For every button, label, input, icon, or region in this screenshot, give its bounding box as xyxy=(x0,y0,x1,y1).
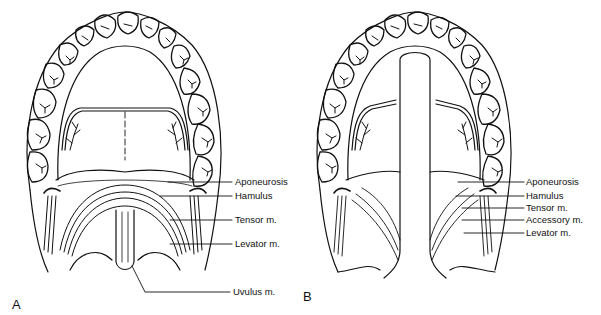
panel-letter-a: A xyxy=(12,298,21,311)
label-a-tensor: Tensor m. xyxy=(235,215,277,225)
palate-illustration xyxy=(0,0,601,315)
label-a-levator: Levator m. xyxy=(235,239,280,249)
panel-a-drawing xyxy=(27,12,232,292)
label-b-levator: Levator m. xyxy=(526,228,571,238)
label-a-aponeurosis: Aponeurosis xyxy=(235,177,288,187)
panel-b-drawing xyxy=(317,12,524,278)
label-b-tensor: Tensor m. xyxy=(526,203,568,213)
label-b-hamulus: Hamulus xyxy=(526,191,564,201)
label-b-aponeurosis: Aponeurosis xyxy=(526,177,579,187)
panel-letter-b: B xyxy=(303,290,312,303)
label-a-hamulus: Hamulus xyxy=(235,191,273,201)
label-a-uvulus: Uvulus m. xyxy=(233,287,275,297)
label-b-accessory: Accessory m. xyxy=(526,215,583,225)
